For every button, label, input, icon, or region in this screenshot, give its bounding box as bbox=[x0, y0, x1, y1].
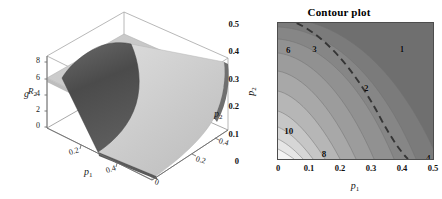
contour-y-tick-0: 0 bbox=[235, 156, 239, 166]
z-axis bbox=[45, 56, 48, 128]
surface-3d-canvas bbox=[0, 0, 236, 199]
contour-label-10: 10 bbox=[284, 126, 293, 136]
contour-x-tick-0p3: 0.3 bbox=[366, 163, 377, 173]
contour-y-tick-0p1: 0.1 bbox=[228, 129, 239, 139]
contour-label-1: 1 bbox=[400, 44, 405, 54]
plane-label-r2: R2 bbox=[28, 86, 37, 98]
contour-plot: Contour plot 0.5 0.4 0.3 0.2 0.1 0 0 0.1… bbox=[236, 0, 442, 199]
x-axis-label-p1-sub: 1 bbox=[89, 171, 93, 179]
contour-plot-area: 6 3 1 2 10 8 4 bbox=[277, 22, 434, 160]
contour-x-tick-0p2: 0.2 bbox=[335, 163, 346, 173]
contour-x-tick-0: 0 bbox=[276, 163, 280, 173]
z-tick-6: 6 bbox=[36, 73, 40, 82]
contour-y-axis-label-text: p bbox=[245, 91, 256, 96]
contour-y-tick-0p5: 0.5 bbox=[228, 19, 239, 29]
contour-bands-canvas bbox=[278, 23, 433, 159]
contour-plot-title: Contour plot bbox=[236, 6, 442, 18]
contour-label-4: 4 bbox=[426, 153, 431, 160]
contour-label-8: 8 bbox=[322, 149, 327, 159]
x-axis-label-p1: p1 bbox=[84, 166, 93, 179]
y-axis-label-p2-sub: 2 bbox=[219, 113, 223, 121]
contour-y-tick-0p4: 0.4 bbox=[228, 46, 239, 56]
contour-label-3: 3 bbox=[312, 44, 317, 54]
plane-label-r2-sub: 2 bbox=[34, 90, 38, 98]
contour-label-6: 6 bbox=[286, 45, 291, 55]
z-tick-2: 2 bbox=[36, 105, 40, 114]
contour-x-axis-label-sub: 1 bbox=[356, 185, 360, 193]
contour-label-2: 2 bbox=[364, 83, 369, 93]
surface-3d-plot: g 8 6 4 2 0 R2 0.2 0.4 p1 0.2 0.4 0 p2 bbox=[0, 0, 236, 199]
contour-y-axis-label-sub: 2 bbox=[250, 87, 258, 91]
contour-y-tick-0p3: 0.3 bbox=[228, 74, 239, 84]
contour-x-tick-0p5: 0.5 bbox=[428, 163, 439, 173]
z-tick-8: 8 bbox=[36, 56, 40, 65]
contour-y-tick-0p2: 0.2 bbox=[228, 101, 239, 111]
contour-y-axis-label: p2 bbox=[245, 87, 258, 96]
z-tick-0: 0 bbox=[36, 121, 40, 130]
contour-x-axis-label: p1 bbox=[351, 180, 360, 193]
contour-x-tick-0p4: 0.4 bbox=[397, 163, 408, 173]
contour-x-tick-0p1: 0.1 bbox=[304, 163, 315, 173]
y-axis-label-p2: p2 bbox=[214, 108, 223, 121]
figure-root: g 8 6 4 2 0 R2 0.2 0.4 p1 0.2 0.4 0 p2 C… bbox=[0, 0, 442, 199]
